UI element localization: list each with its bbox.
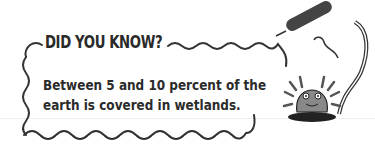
frog-on-lily-pad-icon	[284, 77, 340, 122]
callout-top-border	[168, 43, 286, 66]
callout-body: Between 5 and 10 percent of the earth is…	[43, 75, 249, 115]
callout-body-line: earth is covered in wetlands.	[43, 95, 249, 115]
callout-left-top-border	[26, 43, 43, 57]
callout-title: DID YOU KNOW?	[45, 32, 162, 52]
callout-body-line: Between 5 and 10 percent of the	[43, 75, 249, 95]
callout-bottom-border	[24, 115, 255, 139]
callout-left-border	[23, 57, 29, 135]
